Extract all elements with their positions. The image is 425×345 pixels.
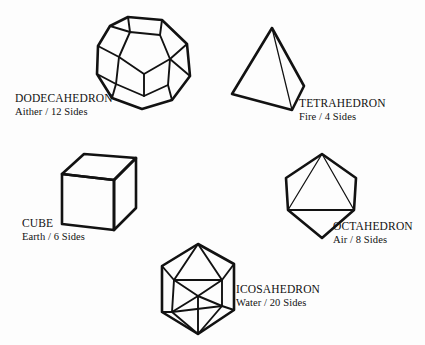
platonic-solids-figure: DODECAHEDRON Aither / 12 Sides TETRAHEDR… bbox=[0, 0, 425, 345]
icosahedron-subtitle: Water / 20 Sides bbox=[236, 297, 320, 309]
octahedron-name: OCTAHEDRON bbox=[333, 220, 413, 234]
dodecahedron-label: DODECAHEDRON Aither / 12 Sides bbox=[15, 92, 113, 118]
octahedron-subtitle: Air / 8 Sides bbox=[333, 234, 413, 246]
icosahedron-label: ICOSAHEDRON Water / 20 Sides bbox=[236, 283, 320, 309]
tetrahedron-label: TETRAHEDRON Fire / 4 Sides bbox=[299, 97, 386, 123]
octahedron-label: OCTAHEDRON Air / 8 Sides bbox=[333, 220, 413, 246]
cube-name: CUBE bbox=[22, 217, 85, 231]
tetrahedron-shape bbox=[226, 24, 310, 116]
icosahedron-name: ICOSAHEDRON bbox=[236, 283, 320, 297]
dodecahedron-name: DODECAHEDRON bbox=[15, 92, 113, 106]
icosahedron-shape bbox=[150, 240, 246, 340]
cube-subtitle: Earth / 6 Sides bbox=[22, 231, 85, 243]
dodecahedron-subtitle: Aither / 12 Sides bbox=[15, 106, 113, 118]
cube-label: CUBE Earth / 6 Sides bbox=[22, 217, 85, 243]
tetrahedron-name: TETRAHEDRON bbox=[299, 97, 386, 111]
tetrahedron-subtitle: Fire / 4 Sides bbox=[299, 111, 386, 123]
